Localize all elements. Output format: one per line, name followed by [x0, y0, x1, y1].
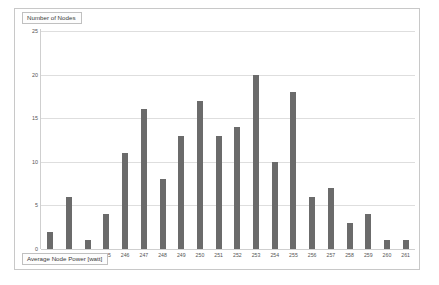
bar-slot: 247: [135, 31, 154, 249]
bar-slot: 261: [396, 31, 415, 249]
bar-slot: 249: [172, 31, 191, 249]
x-axis-tick-label: 252: [233, 252, 242, 258]
bar-slot: 256: [303, 31, 322, 249]
bar-slot: 245: [97, 31, 116, 249]
bar-slot: 253: [247, 31, 266, 249]
x-axis-tick-label: 254: [270, 252, 279, 258]
bar: [66, 197, 72, 249]
bar-slot: 243: [60, 31, 79, 249]
bar: [85, 240, 91, 249]
bar: [384, 240, 390, 249]
bar-series: 2402432442452462472482492502512522532542…: [41, 31, 415, 249]
x-axis-tick-label: 248: [158, 252, 167, 258]
bar-slot: 248: [153, 31, 172, 249]
x-axis-tick-label: 251: [214, 252, 223, 258]
bar: [253, 75, 259, 249]
bar: [328, 188, 334, 249]
bar: [197, 101, 203, 249]
y-axis-tick-label: 0: [35, 246, 38, 252]
bar-slot: 258: [340, 31, 359, 249]
x-axis-tick-label: 250: [196, 252, 205, 258]
bar-slot: 259: [359, 31, 378, 249]
x-axis-tick-label: 258: [345, 252, 354, 258]
bar: [160, 179, 166, 249]
bar-slot: 255: [284, 31, 303, 249]
bar: [216, 136, 222, 249]
x-axis-tick-label: 255: [289, 252, 298, 258]
x-axis-title: Average Node Power [watt]: [22, 253, 108, 265]
x-axis-tick-label: 249: [177, 252, 186, 258]
x-axis-tick-label: 246: [121, 252, 130, 258]
x-axis-tick-label: 260: [383, 252, 392, 258]
bar: [47, 232, 53, 249]
bar-slot: 260: [378, 31, 397, 249]
bar-slot: 250: [191, 31, 210, 249]
y-axis-title: Number of Nodes: [22, 12, 82, 24]
bar-slot: 240: [41, 31, 60, 249]
bar-slot: 246: [116, 31, 135, 249]
bar: [365, 214, 371, 249]
bar: [347, 223, 353, 249]
bar: [309, 197, 315, 249]
bar-slot: 257: [322, 31, 341, 249]
bar: [234, 127, 240, 249]
bar: [403, 240, 409, 249]
x-axis-tick-label: 253: [252, 252, 261, 258]
x-axis-tick-label: 259: [364, 252, 373, 258]
x-axis-tick-label: 257: [327, 252, 336, 258]
x-axis-tick-label: 247: [140, 252, 149, 258]
plot-area: 0510152025 24024324424524624724824925025…: [41, 31, 415, 249]
y-axis-tick-label: 10: [32, 159, 38, 165]
y-axis-tick-label: 5: [35, 202, 38, 208]
y-axis-tick-label: 25: [32, 28, 38, 34]
chart-frame: Number of Nodes 0510152025 2402432442452…: [14, 8, 420, 270]
x-axis-tick-label: 261: [401, 252, 410, 258]
bar-slot: 244: [78, 31, 97, 249]
bar-slot: 254: [265, 31, 284, 249]
bar: [178, 136, 184, 249]
gridline: 0: [41, 249, 415, 250]
bar-slot: 252: [228, 31, 247, 249]
bar-slot: 251: [209, 31, 228, 249]
bar: [290, 92, 296, 249]
y-axis-tick-label: 15: [32, 115, 38, 121]
bar: [122, 153, 128, 249]
bar: [103, 214, 109, 249]
bar: [141, 109, 147, 249]
bar: [272, 162, 278, 249]
y-axis-tick-label: 20: [32, 72, 38, 78]
x-axis-tick-label: 256: [308, 252, 317, 258]
